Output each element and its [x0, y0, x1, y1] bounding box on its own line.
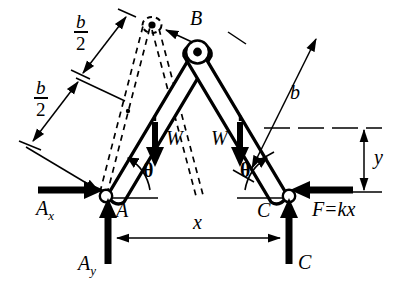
angle-label-theta-left: θ: [143, 160, 153, 180]
force-expression: kx: [338, 198, 356, 220]
pin-support-a: [100, 190, 112, 202]
dimension-label-y: y: [374, 147, 383, 167]
engineering-diagram: b 2 b 2 b B A C W W θ θ Ax Ay C F=kx x y: [0, 0, 405, 296]
equals-sign: =: [324, 198, 337, 220]
dimension-label-x: x: [193, 212, 202, 232]
reaction-label-c: C: [298, 252, 311, 272]
pin-joint-b: [186, 41, 209, 64]
reaction-arrow-ay: [99, 198, 117, 264]
angle-label-theta-right: θ: [240, 160, 250, 180]
dimension-label-b-over-2-lower: b 2: [34, 78, 48, 120]
diagram-canvas: [0, 0, 405, 296]
dimension-b-over-2-upper: [83, 17, 126, 73]
force-symbol: F: [312, 198, 324, 220]
apex-displacement-leader: [166, 30, 192, 42]
reaction-ay-base: A: [78, 252, 90, 274]
dimension-label-b-over-2-upper: b 2: [74, 12, 88, 54]
point-label-b: B: [190, 8, 202, 28]
dashed-left-cg-dot: [126, 109, 130, 113]
reaction-ax-subscript: x: [48, 208, 54, 223]
dimension-b-right: [252, 39, 316, 168]
point-label-a: A: [116, 200, 128, 220]
reaction-ax-base: A: [36, 197, 48, 219]
reaction-arrow-c: [280, 198, 298, 264]
load-label-weight-left: W: [166, 128, 183, 148]
point-label-c: C: [257, 200, 270, 220]
reaction-label-ax: Ax: [36, 198, 54, 218]
reaction-ay-subscript: y: [90, 263, 96, 278]
dimension-label-b: b: [290, 82, 300, 102]
force-label-f-equals-kx: F=kx: [312, 199, 355, 219]
load-label-weight-right: W: [211, 128, 228, 148]
reaction-label-ay: Ay: [78, 253, 96, 273]
force-arrow-f: [290, 181, 353, 199]
